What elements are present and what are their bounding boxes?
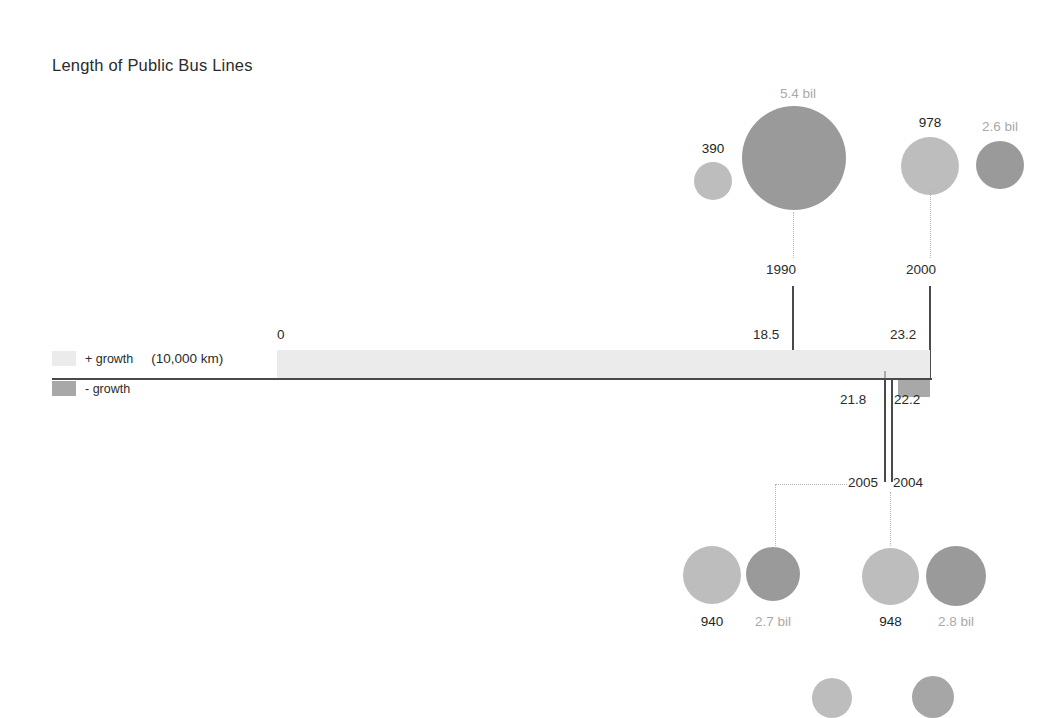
bubble-next-row-left xyxy=(812,678,852,718)
year-label-2000: 2000 xyxy=(906,262,936,277)
axis-value-zero: 0 xyxy=(277,327,285,342)
tick-2005 xyxy=(884,378,886,482)
bubble-label-1990-riders: 390 xyxy=(690,141,736,156)
bubble-1990-volume xyxy=(742,106,846,210)
bubble-2000-riders xyxy=(901,137,959,195)
year-label-2005: 2005 xyxy=(848,475,878,490)
bubble-2005-riders xyxy=(683,546,741,604)
year-label-2004: 2004 xyxy=(893,475,923,490)
legend-row-negative: - growth xyxy=(52,378,267,399)
bubble-group-2000: 978 2.6 bil xyxy=(898,115,1040,210)
axis-value-1990: 18.5 xyxy=(753,327,779,342)
legend-row-positive: + growth (10,000 km) xyxy=(52,348,267,369)
legend-swatch-negative xyxy=(52,381,76,396)
bubble-label-2000-volume: 2.6 bil xyxy=(964,119,1036,134)
tick-2004 xyxy=(891,378,893,482)
axis-value-2000: 23.2 xyxy=(890,327,916,342)
bubble-group-2005: 940 2.7 bil xyxy=(683,546,803,636)
bubble-2005-volume xyxy=(746,547,800,601)
bubble-group-2004: 948 2.8 bil xyxy=(862,546,992,636)
year-label-1990: 1990 xyxy=(766,262,796,277)
legend-label-positive: + growth xyxy=(85,352,133,366)
legend-label-negative: - growth xyxy=(85,382,130,396)
bubble-label-2004-volume: 2.8 bil xyxy=(920,614,992,629)
connector-2004 xyxy=(890,492,891,546)
legend-unit-label: (10,000 km) xyxy=(151,351,223,366)
bubble-label-1990-volume: 5.4 bil xyxy=(746,86,850,101)
bubble-2004-riders xyxy=(862,548,919,605)
connector-2005-vertical xyxy=(775,484,776,546)
bubble-label-2005-volume: 2.7 bil xyxy=(739,614,807,629)
connector-2000 xyxy=(930,190,931,258)
page-title: Length of Public Bus Lines xyxy=(52,56,253,75)
bubble-next-row-right xyxy=(912,676,954,718)
bubble-label-2005-riders: 940 xyxy=(683,614,741,629)
bubble-group-1990: 390 5.4 bil xyxy=(690,86,850,211)
connector-2005-horizontal xyxy=(775,484,847,485)
bubble-label-2004-riders: 948 xyxy=(862,614,919,629)
legend-swatch-positive xyxy=(52,351,76,366)
bubble-label-2000-riders: 978 xyxy=(901,115,959,130)
connector-1990 xyxy=(793,212,794,258)
bar-positive-growth xyxy=(277,350,930,378)
legend: + growth (10,000 km) - growth xyxy=(52,348,267,399)
axis-value-2004: 22.2 xyxy=(894,392,920,407)
bubble-1990-riders xyxy=(694,162,732,200)
bubble-2000-volume xyxy=(976,141,1024,189)
axis-value-2005: 21.8 xyxy=(840,392,866,407)
bubble-2004-volume xyxy=(926,546,986,606)
